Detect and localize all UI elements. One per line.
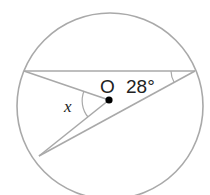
angle-arc-x [82, 91, 88, 117]
center-label: O [100, 76, 115, 97]
circle-diagram: O 28° x [0, 0, 210, 195]
angle-label-x: x [63, 97, 72, 116]
circle [17, 13, 203, 195]
angle-arc-28 [171, 71, 174, 82]
radius-to-lower-point [39, 100, 109, 156]
radius-to-left-point [24, 71, 109, 100]
angle-label-28: 28° [126, 76, 155, 97]
center-dot [105, 96, 112, 103]
